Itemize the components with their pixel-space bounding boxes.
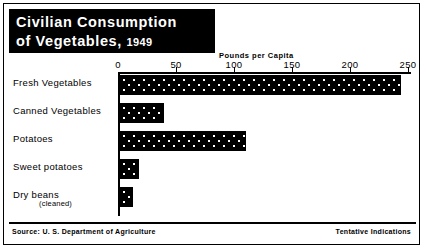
- bar-row: [120, 159, 411, 187]
- x-tick-mark: [350, 67, 351, 72]
- page-title: Civilian Consumption of Vegetables, 1949: [9, 9, 215, 53]
- footer-divider: [9, 222, 416, 224]
- x-axis-line: [118, 72, 411, 74]
- bar-row: [120, 75, 411, 103]
- category-row: Dry beans(cleaned): [13, 187, 117, 215]
- bar: [120, 187, 133, 207]
- category-label-note: (cleaned): [39, 199, 72, 208]
- category-label: Canned Vegetables: [13, 105, 101, 116]
- x-tick-mark: [234, 67, 235, 72]
- x-tick-mark: [176, 67, 177, 72]
- x-tick-mark: [408, 67, 409, 72]
- category-label: Sweet potatoes: [13, 161, 83, 172]
- category-row: Canned Vegetables: [13, 103, 117, 131]
- plot-area: 050100150200250: [118, 59, 414, 216]
- x-tick-mark: [292, 67, 293, 72]
- bar-series: [120, 75, 411, 217]
- x-tick-label: 0: [115, 59, 121, 70]
- bar: [120, 103, 164, 123]
- title-year: 1949: [127, 36, 153, 48]
- category-label: Potatoes: [13, 133, 53, 144]
- bar-row: [120, 103, 411, 131]
- bar: [120, 75, 401, 95]
- title-subject: of Vegetables,: [16, 33, 122, 49]
- chart-poster: Civilian Consumption of Vegetables, 1949…: [3, 3, 420, 245]
- category-row: Fresh Vegetables: [13, 75, 117, 103]
- bar: [120, 131, 246, 151]
- bar-row: [120, 187, 411, 215]
- source-text: Source: U. S. Department of Agriculture: [12, 228, 156, 235]
- x-axis-tick-labels: 050100150200250: [118, 59, 414, 71]
- bar: [120, 159, 139, 179]
- tentative-note: Tentative Indications: [336, 228, 411, 235]
- category-label: Fresh Vegetables: [13, 77, 92, 88]
- bar-row: [120, 131, 411, 159]
- title-line-2: of Vegetables, 1949: [16, 32, 215, 52]
- category-label-list: Fresh VegetablesCanned VegetablesPotatoe…: [13, 75, 117, 217]
- category-row: Potatoes: [13, 131, 117, 159]
- title-line-1: Civilian Consumption: [16, 13, 215, 32]
- category-row: Sweet potatoes: [13, 159, 117, 187]
